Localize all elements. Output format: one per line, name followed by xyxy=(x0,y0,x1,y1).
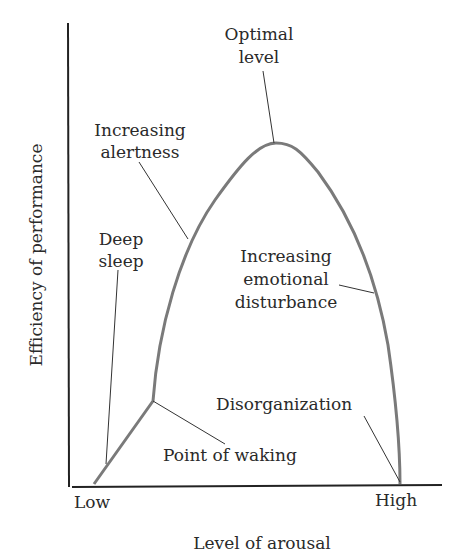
leader-alertness xyxy=(139,162,188,239)
label-deep-sleep: sleep xyxy=(98,251,143,271)
x-axis-title: Level of arousal xyxy=(193,533,331,553)
performance-curve xyxy=(94,143,400,484)
label-waking: Point of waking xyxy=(163,445,297,465)
leader-deep-sleep xyxy=(106,270,118,464)
label-deep-sleep: Deep xyxy=(99,229,144,249)
leader-optimal xyxy=(263,71,274,143)
label-emotional: Increasing xyxy=(240,246,332,266)
label-disorganization: Disorganization xyxy=(216,394,352,414)
label-emotional: disturbance xyxy=(235,292,338,312)
arousal-performance-diagram: Optimal level Increasing alertness Deep … xyxy=(0,0,471,554)
label-optimal: level xyxy=(239,47,280,67)
y-axis-title: Efficiency of performance xyxy=(26,144,46,367)
x-tick-low: Low xyxy=(74,492,111,512)
x-axis xyxy=(72,485,442,487)
label-emotional: emotional xyxy=(243,269,328,289)
label-optimal: Optimal xyxy=(225,24,294,44)
leader-emotional xyxy=(339,285,374,293)
leader-waking xyxy=(153,401,225,444)
x-tick-high: High xyxy=(375,490,417,510)
label-alertness: Increasing xyxy=(94,120,186,140)
y-axis xyxy=(68,23,69,487)
leader-disorganization xyxy=(364,416,400,482)
label-alertness: alertness xyxy=(100,142,179,162)
